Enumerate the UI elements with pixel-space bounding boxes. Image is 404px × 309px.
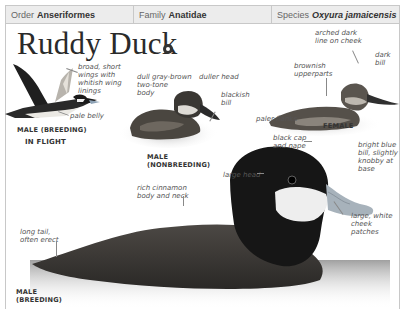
family-value: Anatidae (169, 10, 207, 20)
annotation-female-bill: dark bill (375, 51, 391, 67)
order-label: Order (11, 10, 34, 20)
annotation-breeding-head: large head (223, 171, 261, 179)
female-duck-illustration (265, 80, 404, 140)
annotation-breeding-bill: bright blue bill, slightly knobby at bas… (358, 141, 398, 173)
annotation-breeding-tail: long tail, often erect (20, 228, 59, 244)
taxonomy-bar: Order Anseriformes Family Anatidae Speci… (5, 5, 400, 24)
leader-line (56, 241, 57, 257)
annotation-nonbreeding-body: dull gray-brown two-tone body (137, 73, 192, 97)
annotation-flight-belly: pale belly (70, 112, 104, 120)
annotation-female-flanks: paler flanks (256, 115, 297, 123)
caption-flight-line1: MALE (BREEDING) (17, 126, 87, 134)
taxonomy-order: Order Anseriformes (6, 6, 134, 23)
leader-line (326, 78, 327, 96)
annotation-nonbreeding-head: duller head (199, 73, 239, 81)
annotation-breeding-body: rich cinnamon body and neck (137, 184, 189, 200)
speaker-icon[interactable] (163, 44, 173, 54)
annotation-female-upperparts: brownish upperparts (294, 62, 333, 78)
family-label: Family (139, 10, 166, 20)
taxonomy-family: Family Anatidae (134, 6, 272, 23)
species-label: Species (277, 10, 309, 20)
annotation-nonbreeding-bill: blackish bill (221, 91, 250, 107)
caption-female: FEMALE (323, 122, 354, 130)
taxonomy-species: Species Oxyura jamaicensis (272, 6, 399, 23)
annotation-breeding-cheek: large, white cheek patches (351, 212, 392, 236)
species-value: Oxyura jamaicensis (312, 10, 397, 20)
annotation-flight-wings: broad, short wings with whitish wing lin… (78, 63, 122, 95)
breeding-duck-illustration (30, 140, 400, 309)
leader-line (257, 173, 264, 174)
order-value: Anseriformes (37, 10, 95, 20)
leader-line (183, 196, 184, 206)
annotation-breeding-cap: black cap and nape (273, 134, 306, 150)
page-title: Ruddy Duck (17, 26, 178, 62)
leader-line (304, 141, 312, 142)
caption-breeding: MALE (BREEDING) (16, 288, 62, 304)
annotation-female-cheek: arched dark line on cheek (315, 29, 362, 45)
